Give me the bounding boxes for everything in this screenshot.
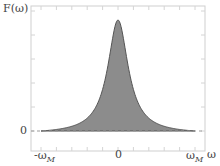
x-tick-zero: 0 <box>115 148 122 161</box>
x-axis-label: ω <box>207 148 216 161</box>
lorentzian-plot <box>0 0 220 166</box>
x-tick-omega-m: ωM <box>186 149 203 164</box>
y-axis-label: F(ω) <box>3 2 28 15</box>
x-tick-neg-omega-m: -ωM <box>34 149 55 164</box>
y-tick-zero: 0 <box>20 124 27 137</box>
